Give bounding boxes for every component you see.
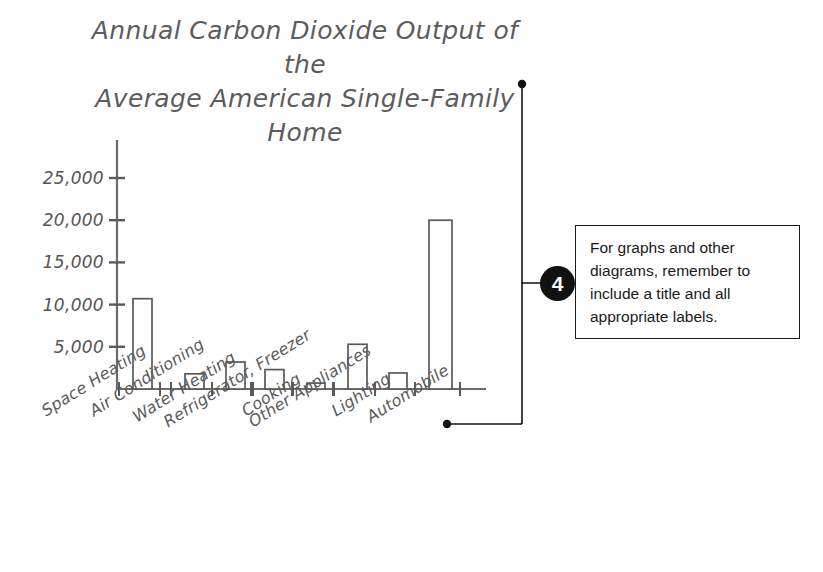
y-tick-label: 15,000 <box>20 252 104 272</box>
y-tick-label: 10,000 <box>20 295 104 315</box>
y-axis-labels: 5,00010,00015,00020,00025,000 <box>14 0 104 572</box>
plot-area: 5,00010,00015,00020,00025,000 Space Heat… <box>0 0 560 572</box>
y-tick-label: 5,000 <box>20 337 104 357</box>
callout-box: For graphs and other diagrams, remember … <box>575 225 800 339</box>
y-tick-label: 25,000 <box>20 168 104 188</box>
y-tick-label: 20,000 <box>20 210 104 230</box>
figure-annotated-bar-chart: Annual Carbon Dioxide Output of the Aver… <box>0 0 823 572</box>
callout-number-badge: 4 <box>540 266 575 301</box>
callout-text: For graphs and other diagrams, remember … <box>590 236 789 328</box>
